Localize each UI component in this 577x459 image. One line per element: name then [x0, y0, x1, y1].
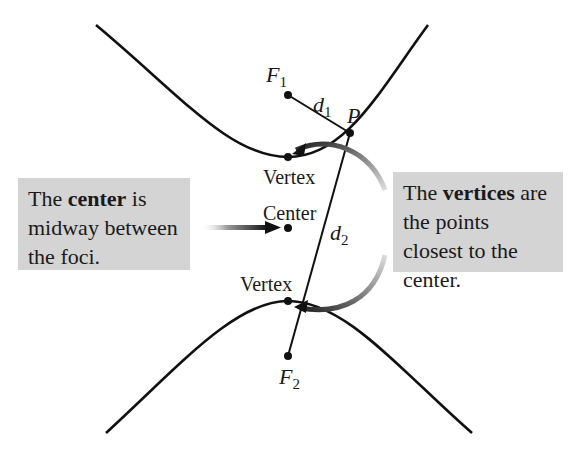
vertex-top-label: Vertex: [263, 166, 315, 188]
point-p: [346, 129, 354, 137]
vertices-callout: The vertices are the points closest to t…: [393, 172, 563, 272]
vertices-term: vertices: [443, 180, 515, 205]
focus-1-point: [284, 91, 292, 99]
center-arrow-shaft: [200, 225, 268, 230]
point-p-label: P: [346, 103, 360, 128]
focus-1-label: F1: [265, 62, 287, 90]
vertex-top-point: [284, 153, 292, 161]
d2-label: d2: [330, 220, 349, 248]
center-callout: The center is midway between the foci.: [18, 178, 190, 270]
arrow-head-top-icon: [292, 143, 306, 156]
vertex-bottom-label: Vertex: [240, 273, 292, 295]
focus-2-point: [284, 352, 292, 360]
upper-branch: [96, 25, 428, 157]
center-point: [284, 224, 292, 232]
arrow-to-bottom-vertex: [300, 255, 385, 310]
d1-label: d1: [313, 92, 332, 120]
focus-2-label: F2: [278, 364, 300, 392]
vertex-bottom-point: [284, 297, 292, 305]
center-label: Center: [263, 202, 317, 224]
center-term: center: [68, 186, 127, 211]
